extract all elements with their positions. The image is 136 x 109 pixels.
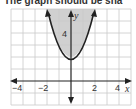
y-axis-label: y	[73, 10, 79, 21]
x-tick-label: −2	[38, 83, 48, 93]
coordinate-plane: −4 −2 2 4 4 x y	[0, 0, 136, 109]
x-tick-label: 4	[115, 83, 120, 93]
x-tick-label: −4	[12, 83, 22, 93]
x-axis-label: x	[124, 83, 130, 94]
y-axis-down-arrow-icon	[68, 97, 74, 104]
y-tick-label: 4	[62, 29, 67, 39]
x-tick-label: 2	[92, 83, 97, 93]
